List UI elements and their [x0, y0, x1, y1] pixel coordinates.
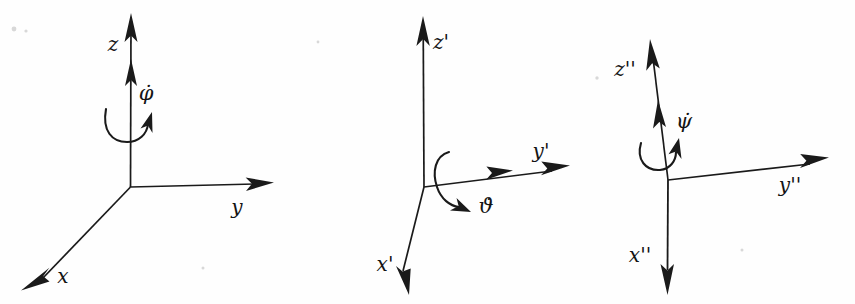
scan-speck: [595, 76, 598, 79]
scan-speck: [741, 249, 744, 252]
z-prime-axis-label: z': [432, 30, 449, 54]
y-prime-axis-arrowhead-outer: [541, 162, 570, 176]
x-axis-label: x: [57, 264, 68, 288]
y-prime-axis-label: y': [532, 139, 550, 163]
panel-second-coordinate-frame: z' y' x' ϑ̇: [377, 16, 570, 295]
y-axis-label: y: [230, 195, 243, 219]
theta-dot-label: ϑ̇: [478, 194, 493, 218]
y-double-prime-axis-arrowhead: [800, 154, 829, 168]
scan-speck: [317, 41, 320, 44]
x-double-prime-axis-label: x'': [629, 243, 651, 267]
x-prime-axis-line: [403, 187, 424, 271]
theta-rotation-arc: [435, 152, 459, 207]
x-prime-axis-label: x': [377, 252, 394, 276]
z-axis-label: z: [107, 32, 119, 56]
psi-rotation-arc: [640, 143, 676, 170]
x-double-prime-axis-line: [668, 180, 669, 270]
phi-dot-label: φ̇: [139, 81, 154, 105]
scan-speck: [12, 27, 17, 32]
x-axis-line: [42, 187, 131, 279]
phi-rotation-arc: [105, 109, 148, 142]
euler-angle-figure: z y x φ̇ z' y' x' ϑ̇: [0, 0, 855, 304]
scan-speck: [202, 267, 205, 270]
y-double-prime-axis-label: y'': [778, 173, 801, 197]
y-axis-line: [131, 184, 256, 187]
z-prime-axis-line: [423, 26, 424, 187]
z-double-prime-arrowhead-outer: [646, 39, 660, 71]
figure-root: z y x φ̇ z' y' x' ϑ̇: [0, 0, 855, 304]
panel-first-coordinate-frame: z y x φ̇: [21, 13, 274, 291]
x-axis-arrowhead: [21, 268, 50, 291]
psi-dot-label: ψ̇: [676, 109, 693, 133]
z-axis-line: [131, 22, 132, 187]
panel-third-coordinate-frame: z'' y'' x'' ψ̇: [613, 39, 829, 295]
z-double-prime-axis-label: z'': [613, 57, 636, 81]
scan-speck: [24, 29, 27, 32]
